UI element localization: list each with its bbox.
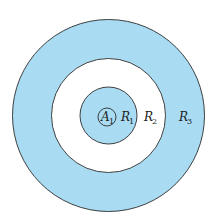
- concentric-rings-diagram: A 1 R 1 R 2 R 3: [0, 0, 217, 222]
- svg-text:1: 1: [129, 117, 134, 126]
- svg-text:3: 3: [187, 117, 192, 126]
- svg-text:1: 1: [109, 117, 114, 126]
- svg-text:2: 2: [152, 117, 157, 126]
